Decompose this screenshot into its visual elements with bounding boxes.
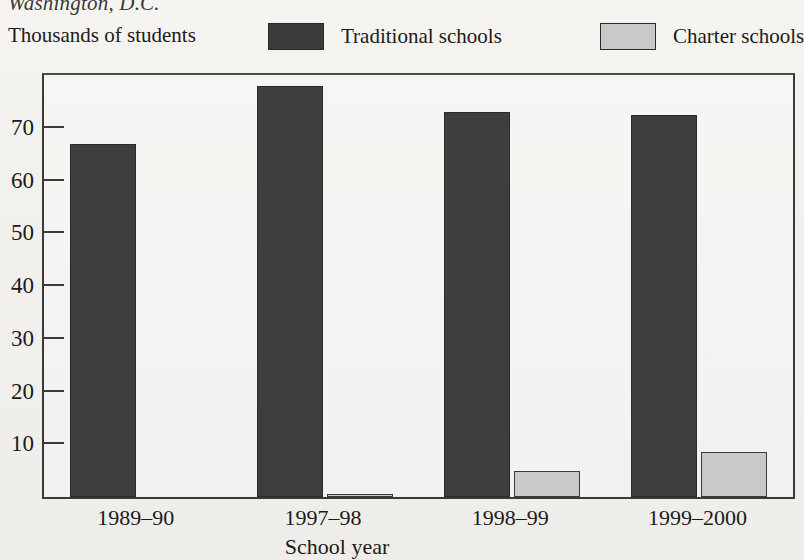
bar-traditional-1: [257, 86, 323, 497]
light-swatch-icon: [600, 23, 656, 50]
legend-label-charter-schools: Charter schools: [673, 24, 804, 49]
y-axis-title: Thousands of students: [8, 23, 196, 48]
y-axis-tick-label: 30: [11, 326, 34, 352]
y-axis-tick-label: 40: [11, 273, 34, 299]
y-axis-tick-labels: 10203040506070: [0, 73, 42, 499]
y-axis-tick-label: 60: [11, 168, 34, 194]
chart-figure: Washington, D.C. Thousands of students T…: [0, 0, 804, 560]
y-axis-tick: [44, 442, 64, 444]
y-axis-tick: [44, 231, 64, 233]
plot-frame: [42, 73, 795, 499]
legend-label-traditional-schools: Traditional schools: [341, 24, 502, 49]
x-axis-tick-label: 1999–2000: [648, 505, 747, 531]
bar-traditional-0: [70, 144, 136, 497]
dark-swatch-icon: [268, 23, 324, 50]
bar-traditional-2: [444, 112, 510, 497]
x-axis-tick-label: 1998–99: [472, 505, 549, 531]
plot-area: [44, 75, 793, 497]
legend-item-traditional-schools: Traditional schools: [268, 21, 502, 51]
y-axis-tick-label: 50: [11, 220, 34, 246]
x-axis-tick-labels: 1989–901997–981998–991999–2000: [42, 505, 795, 535]
y-axis-tick: [44, 179, 64, 181]
bar-charter-2: [514, 471, 580, 497]
bar-charter-3: [701, 452, 767, 497]
bar-traditional-3: [631, 115, 697, 497]
x-axis-title-text: School year: [285, 534, 389, 559]
y-axis-tick-label: 10: [11, 431, 34, 457]
y-axis-tick: [44, 126, 64, 128]
y-axis-tick-label: 70: [11, 115, 34, 141]
y-axis-tick: [44, 284, 64, 286]
y-axis-tick-label: 20: [11, 379, 34, 405]
y-axis-tick: [44, 337, 64, 339]
y-axis-tick: [44, 390, 64, 392]
x-axis-tick-label: 1989–90: [97, 505, 174, 531]
chart-header: Thousands of students Traditional school…: [0, 21, 804, 55]
figure-source-title: Washington, D.C.: [8, 0, 160, 16]
x-axis-title: School year: [0, 534, 804, 560]
legend-item-charter-schools: Charter schools: [600, 21, 804, 51]
bar-charter-1: [327, 494, 393, 497]
x-axis-tick-label: 1997–98: [284, 505, 361, 531]
